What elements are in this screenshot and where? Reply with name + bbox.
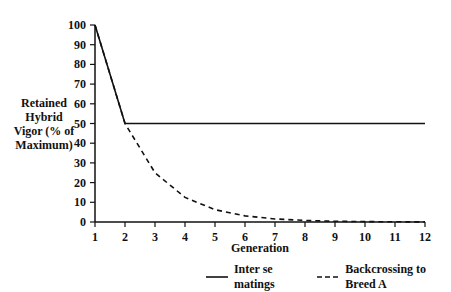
x-tick-label: 9 (332, 230, 338, 244)
x-tick-label: 12 (419, 230, 431, 244)
y-tick-label: 90 (74, 38, 86, 52)
y-tick-label: 50 (74, 117, 86, 131)
y-tick-label: 30 (74, 156, 86, 170)
x-tick-label: 3 (152, 230, 158, 244)
x-tick-label: 4 (182, 230, 188, 244)
y-tick-label: 70 (74, 77, 86, 91)
line-chart: 0102030405060708090100123456789101112 Ge… (0, 0, 451, 292)
legend-label: Inter se matings (234, 262, 303, 292)
y-tick-label: 10 (74, 195, 86, 209)
legend-item-backcrossing: Backcrossing to Breed A (317, 262, 451, 292)
legend-label: Backcrossing to Breed A (345, 262, 451, 292)
solid-line-swatch-icon (206, 274, 228, 280)
x-tick-label: 8 (302, 230, 308, 244)
dashed-line-swatch-icon (317, 274, 339, 280)
x-axis-title: Generation (231, 241, 289, 255)
x-tick-label: 11 (389, 230, 400, 244)
series-group (95, 25, 425, 222)
x-tick-label: 2 (122, 230, 128, 244)
y-tick-label: 0 (80, 215, 86, 229)
axes: 0102030405060708090100123456789101112 (68, 18, 431, 244)
y-tick-label: 60 (74, 97, 86, 111)
y-tick-label: 80 (74, 57, 86, 71)
legend-item-inter-se: Inter se matings (206, 262, 303, 292)
x-tick-label: 5 (212, 230, 218, 244)
y-tick-label: 20 (74, 176, 86, 190)
inter-se-series-line (95, 25, 425, 124)
y-tick-label: 100 (68, 18, 86, 32)
y-tick-label: 40 (74, 136, 86, 150)
x-tick-label: 10 (359, 230, 371, 244)
x-tick-label: 1 (92, 230, 98, 244)
legend: Inter se matings Backcrossing to Breed A (206, 262, 451, 292)
